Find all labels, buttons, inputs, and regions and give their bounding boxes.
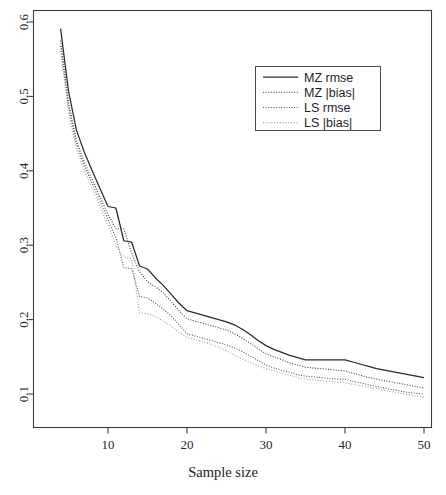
chart-legend[interactable]: MZ rmseMZ |bias|LS rmseLS |bias| [256, 67, 381, 131]
x-axis-ticks: 1020304050 [102, 428, 431, 452]
y-tick-label: 0.4 [16, 162, 31, 179]
y-axis-ticks: 0.10.20.30.40.50.6 [16, 13, 34, 402]
legend-label-2: LS rmse [304, 101, 351, 115]
legend-label-3: LS |bias| [304, 116, 352, 130]
y-tick-label: 0.6 [16, 13, 31, 30]
y-tick-label: 0.3 [16, 237, 31, 253]
y-tick-label: 0.1 [16, 386, 31, 402]
x-tick-label: 10 [102, 437, 115, 452]
x-tick-label: 50 [418, 437, 431, 452]
y-tick-label: 0.2 [16, 311, 31, 327]
y-tick-label: 0.5 [16, 88, 31, 104]
legend-label-0: MZ rmse [304, 71, 353, 85]
legend-label-1: MZ |bias| [304, 86, 355, 100]
x-tick-label: 20 [181, 437, 194, 452]
figure-canvas: 0.10.20.30.40.50.6 1020304050 MZ rmseMZ … [0, 0, 446, 495]
x-tick-label: 40 [339, 437, 352, 452]
x-tick-label: 30 [260, 437, 273, 452]
x-axis-title: Sample size [188, 464, 258, 480]
line-chart: 0.10.20.30.40.50.6 1020304050 MZ rmseMZ … [0, 0, 446, 495]
